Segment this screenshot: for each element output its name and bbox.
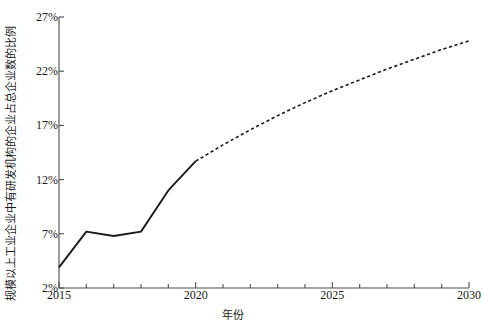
chart-figure: 规模以上工业企业中有研发机构的企业占总企业数的比例 2%7%12%17%22%2…: [0, 0, 482, 330]
series-line-projection: [196, 41, 469, 161]
series-line-historical: [59, 161, 196, 267]
data-series-layer: [59, 41, 469, 268]
x-axis-title-text: 年份: [222, 309, 244, 322]
x-axis-title: 年份: [0, 306, 482, 322]
axis-lines: [59, 17, 469, 288]
x-axis-ticks: [59, 282, 469, 288]
y-axis-ticks: [59, 17, 64, 288]
plot-area: [0, 0, 482, 330]
